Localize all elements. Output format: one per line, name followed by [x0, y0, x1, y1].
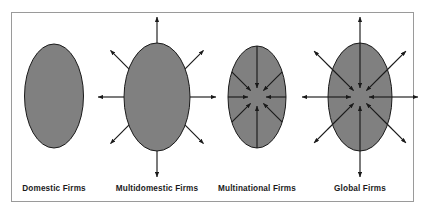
- panel-domestic: [25, 44, 84, 148]
- firm-ellipse: [124, 43, 190, 151]
- panel-labels-group: Domestic FirmsMultidomestic FirmsMultina…: [22, 184, 386, 193]
- firm-ellipse: [25, 44, 84, 148]
- arrow-outward-down-right: [388, 125, 406, 143]
- panels-group: [25, 17, 419, 177]
- arrow-outward-up-right: [388, 51, 406, 69]
- figure-canvas: Domestic FirmsMultidomestic FirmsMultina…: [0, 0, 426, 217]
- panel-label-global: Global Firms: [334, 184, 386, 193]
- arrow-outward-up-left: [110, 50, 128, 68]
- panel-global: [302, 17, 418, 177]
- arrow-outward-down-left: [314, 125, 332, 143]
- arrow-outward-up-left: [314, 51, 332, 69]
- panel-label-multinational: Multinational Firms: [218, 184, 296, 193]
- arrow-outward-up-right: [185, 50, 203, 68]
- arrow-outward-down-left: [110, 125, 128, 143]
- panel-label-multidomestic: Multidomestic Firms: [116, 184, 199, 193]
- diagram-svg: Domestic FirmsMultidomestic FirmsMultina…: [0, 0, 426, 217]
- arrow-outward-down-right: [185, 125, 203, 143]
- panel-multidomestic: [98, 17, 216, 177]
- panel-label-domestic: Domestic Firms: [22, 184, 86, 193]
- panel-multinational: [228, 46, 286, 148]
